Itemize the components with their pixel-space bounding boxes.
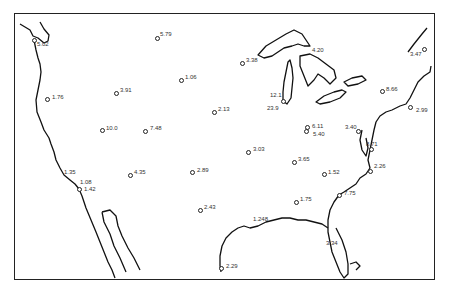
station-value-label: 12.1 <box>270 92 282 98</box>
station-marker-icon <box>155 36 160 41</box>
station-value-label: 6.11 <box>312 123 323 129</box>
station-value-label: 1.76 <box>52 94 64 100</box>
station-value-label: 5.02 <box>37 41 49 47</box>
station-marker-icon <box>32 38 37 43</box>
station-value-label: 2.99 <box>416 107 428 113</box>
station-value-label: 8.71 <box>366 141 378 147</box>
station-marker-icon <box>212 110 217 115</box>
station-marker-icon <box>304 129 309 134</box>
station-value-label: 4.20 <box>312 47 324 53</box>
station-marker-icon <box>292 160 297 165</box>
station-marker-icon <box>77 187 82 192</box>
us-station-map: 5.025.793.384.203.471.763.911.0612.123.9… <box>0 0 449 290</box>
station-marker-icon <box>422 47 427 52</box>
station-marker-icon <box>281 99 286 104</box>
station-marker-icon <box>100 128 105 133</box>
lake-ontario <box>344 76 366 86</box>
station-marker-icon <box>380 89 385 94</box>
station-marker-icon <box>368 169 373 174</box>
station-marker-icon <box>45 97 50 102</box>
station-marker-icon <box>219 266 224 271</box>
station-value-label: 5.40 <box>313 131 325 137</box>
station-value-label: 1.08 <box>80 179 92 185</box>
station-value-label: 4.35 <box>134 169 146 175</box>
station-value-label: 3.65 <box>298 156 310 162</box>
station-value-label: 7.75 <box>344 190 356 196</box>
station-marker-icon <box>408 105 413 110</box>
station-value-label: 2.13 <box>218 106 230 112</box>
lake-erie <box>316 90 346 104</box>
lake-michigan <box>283 60 293 104</box>
station-value-label: 8.66 <box>386 86 398 92</box>
station-value-label: 23.9 <box>267 105 279 111</box>
station-value-label: 3.38 <box>246 57 258 63</box>
station-value-label: 2.26 <box>374 163 386 169</box>
station-marker-icon <box>190 170 195 175</box>
lake-huron <box>300 54 336 86</box>
station-value-label: 3.34 <box>326 240 338 246</box>
station-marker-icon <box>246 150 251 155</box>
station-marker-icon <box>322 172 327 177</box>
station-value-label: 2.89 <box>197 167 209 173</box>
coastline-outlines <box>0 0 449 290</box>
station-value-label: 1.52 <box>328 169 340 175</box>
station-marker-icon <box>240 61 245 66</box>
pacific-coastline <box>20 22 115 278</box>
island-fragment <box>350 262 360 270</box>
lake-superior <box>258 30 310 58</box>
station-marker-icon <box>369 147 374 152</box>
atlantic-coastline <box>328 66 431 278</box>
station-value-label: 3.40 <box>345 124 357 130</box>
station-value-label: 7.48 <box>150 125 162 131</box>
station-value-label: 10.0 <box>106 125 118 131</box>
station-marker-icon <box>128 173 133 178</box>
station-value-label: 3.47 <box>410 51 422 57</box>
station-value-label: 1.75 <box>300 196 312 202</box>
station-marker-icon <box>143 129 148 134</box>
station-marker-icon <box>294 200 299 205</box>
station-value-label: 1.06 <box>185 74 197 80</box>
station-value-label: 1.42 <box>84 186 96 192</box>
station-value-label: 1.35 <box>64 169 76 175</box>
station-marker-icon <box>337 193 342 198</box>
station-value-label: 3.03 <box>253 146 265 152</box>
station-value-label: 1.248 <box>253 216 268 222</box>
station-value-label: 2.29 <box>226 263 238 269</box>
station-value-label: 2.43 <box>204 204 216 210</box>
station-marker-icon <box>179 78 184 83</box>
station-value-label: 5.79 <box>160 31 172 37</box>
station-value-label: 3.91 <box>120 87 132 93</box>
station-marker-icon <box>114 91 119 96</box>
station-marker-icon <box>198 208 203 213</box>
